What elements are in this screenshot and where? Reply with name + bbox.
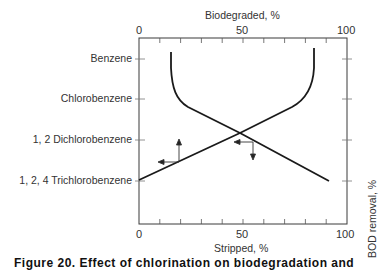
top-tick-100: 100 — [337, 24, 355, 36]
series-line-biodegraded — [171, 52, 329, 181]
annotation-arrows-right — [234, 140, 256, 161]
top-tick-0: 0 — [136, 24, 142, 36]
bottom-tick-50: 50 — [236, 228, 248, 240]
top-axis-ticks — [160, 38, 326, 43]
top-tick-50: 50 — [236, 24, 248, 36]
category-chlorobenzene: Chlorobenzene — [61, 92, 132, 104]
bottom-tick-0: 0 — [136, 228, 142, 240]
right-axis-title: BOD removal, % — [366, 180, 378, 258]
figure-caption: Figure 20. Effect of chlorination on bio… — [14, 256, 354, 270]
arrow-left-icon — [234, 140, 240, 145]
top-axis-title: Biodegraded, % — [205, 9, 280, 21]
annotation-arrows-left — [158, 139, 182, 165]
arrow-down-icon — [251, 154, 256, 160]
category-dichlorobenzene: 1, 2 Dichlorobenzene — [33, 133, 132, 145]
bottom-axis-title: Stripped, % — [214, 242, 268, 254]
arrow-left-icon — [158, 160, 164, 165]
left-axis-ticks — [135, 59, 145, 181]
bottom-tick-100: 100 — [336, 228, 354, 240]
category-trichlorobenzene: 1, 2, 4 Trichlorobenzene — [19, 174, 132, 186]
series-line-stripped — [139, 48, 314, 180]
bottom-axis-ticks — [160, 219, 326, 224]
arrow-up-icon — [177, 139, 182, 145]
category-benzene: Benzene — [91, 52, 132, 64]
